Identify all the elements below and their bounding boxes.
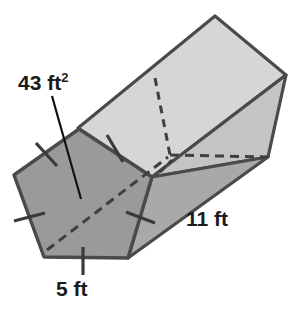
side-label: 5 ft: [56, 278, 88, 299]
area-label-text: 43 ft: [18, 71, 61, 94]
area-label: 43 ft2: [18, 72, 68, 93]
length-label: 11 ft: [186, 208, 228, 229]
prism-drawing: [0, 0, 302, 320]
area-label-exponent: 2: [61, 70, 68, 85]
geometry-figure: 43 ft2 11 ft 5 ft: [0, 0, 302, 320]
